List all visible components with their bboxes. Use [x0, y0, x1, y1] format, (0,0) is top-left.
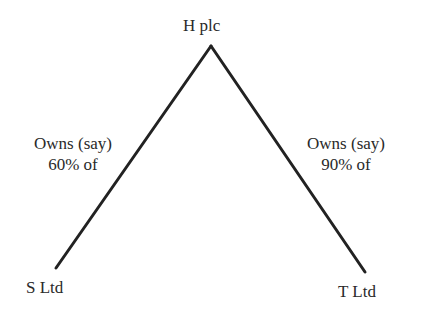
node-t-ltd: T Ltd [338, 281, 376, 302]
node-h-plc: H plc [183, 15, 220, 36]
edge-label-t-line2: 90% of [288, 154, 404, 175]
edge-label-s-line2: 60% of [18, 154, 128, 175]
edge-label-s-line1: Owns (say) [18, 133, 128, 154]
edge-label-t-line1: Owns (say) [288, 133, 404, 154]
edge-label-s: Owns (say) 60% of [18, 133, 128, 175]
edge-label-t: Owns (say) 90% of [288, 133, 404, 175]
node-s-ltd: S Ltd [26, 277, 63, 298]
